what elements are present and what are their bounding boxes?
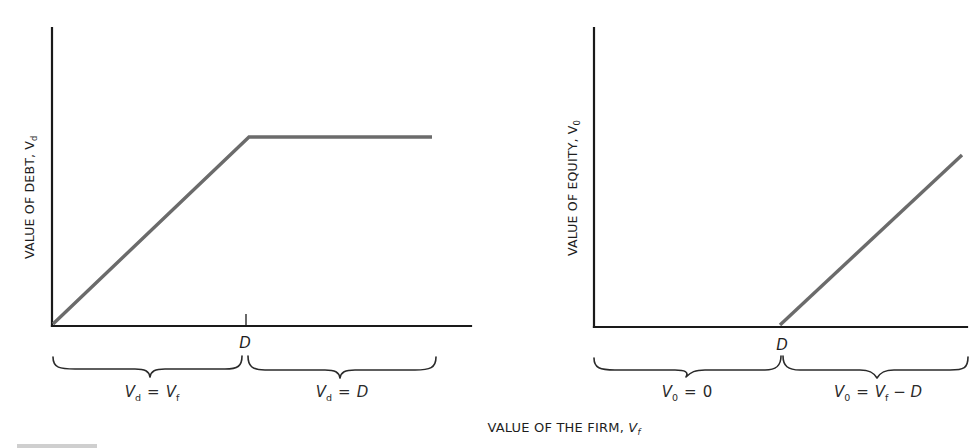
equity-d-tick-label: D	[776, 336, 788, 354]
shared-x-axis-label: VALUE OF THE FIRM, Vf	[487, 420, 642, 437]
debt-region-label-left: Vd=Vf	[125, 383, 180, 403]
cropped-caption-fragment	[17, 444, 97, 448]
debt-region-label-right: Vd=D	[316, 383, 368, 403]
debt-y-axis-label: VALUE OF DEBT, Vd	[22, 135, 39, 259]
debt-chart: VALUE OF DEBT, Vd D Vd=Vf Vd=D	[22, 28, 471, 403]
equity-payoff-line	[780, 155, 962, 325]
equity-region-label-right: V0=Vf − D	[834, 383, 922, 403]
figure: VALUE OF DEBT, Vd D Vd=Vf Vd=D VALUE OF …	[0, 0, 980, 448]
debt-d-tick-label: D	[239, 334, 251, 352]
equity-y-axis-label: VALUE OF EQUITY, V0	[565, 120, 582, 256]
debt-brace-left	[53, 356, 242, 377]
equity-region-label-left: V0=0	[662, 383, 712, 403]
debt-brace-right	[248, 356, 436, 378]
debt-payoff-line	[53, 137, 432, 324]
equity-brace-right	[783, 356, 968, 378]
equity-brace-left	[594, 356, 781, 377]
equity-chart: VALUE OF EQUITY, V0 D V0=0 V0=Vf − D	[565, 28, 968, 403]
